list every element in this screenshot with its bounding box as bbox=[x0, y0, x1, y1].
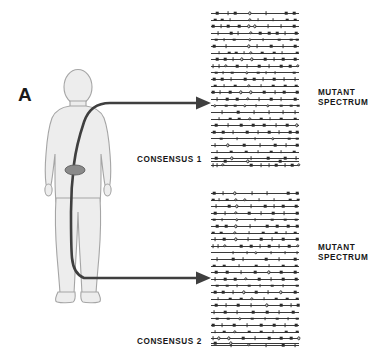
filled-square-mutation-marker bbox=[221, 78, 224, 81]
filled-square-mutation-marker bbox=[248, 330, 251, 333]
tick-mutation-marker bbox=[247, 251, 248, 255]
genome-backbone bbox=[211, 345, 299, 346]
tick-mutation-marker bbox=[258, 150, 259, 154]
filled-square-mutation-marker bbox=[284, 157, 287, 160]
tick-mutation-marker bbox=[228, 124, 229, 128]
genome-backbone bbox=[211, 343, 299, 344]
genome-backbone bbox=[211, 318, 299, 319]
filled-square-mutation-marker bbox=[268, 32, 271, 35]
filled-square-mutation-marker bbox=[284, 85, 287, 88]
tick-mutation-marker bbox=[215, 330, 216, 334]
filled-square-mutation-marker bbox=[280, 104, 283, 107]
filled-square-mutation-marker bbox=[279, 160, 282, 163]
tick-mutation-marker bbox=[271, 251, 272, 255]
tick-mutation-marker bbox=[264, 297, 265, 301]
filled-square-mutation-marker bbox=[286, 19, 289, 22]
filled-square-mutation-marker bbox=[212, 232, 215, 235]
tick-mutation-marker bbox=[274, 58, 275, 62]
tick-mutation-marker bbox=[215, 277, 216, 281]
tick-mutation-marker bbox=[288, 317, 289, 321]
figure-hand-left bbox=[45, 184, 52, 196]
tick-mutation-marker bbox=[251, 304, 252, 308]
filled-square-mutation-marker bbox=[276, 32, 279, 35]
tick-mutation-marker bbox=[295, 77, 296, 81]
mutant-spectrum-label-2-line1: MUTANT bbox=[318, 243, 368, 253]
filled-square-mutation-marker bbox=[286, 298, 289, 301]
tick-mutation-marker bbox=[222, 110, 223, 114]
filled-square-mutation-marker bbox=[260, 330, 263, 333]
tick-mutation-marker bbox=[213, 64, 214, 68]
filled-square-mutation-marker bbox=[288, 245, 291, 248]
genome-backbone bbox=[211, 305, 299, 306]
filled-square-mutation-marker bbox=[225, 225, 228, 228]
filled-square-mutation-marker bbox=[213, 218, 216, 221]
filled-square-mutation-marker bbox=[296, 137, 299, 140]
filled-square-mutation-marker bbox=[275, 232, 278, 235]
filled-square-mutation-marker bbox=[257, 71, 260, 74]
filled-square-mutation-marker bbox=[243, 144, 246, 147]
filled-square-mutation-marker bbox=[265, 258, 268, 261]
tick-mutation-marker bbox=[272, 238, 273, 242]
filled-square-mutation-marker bbox=[232, 258, 235, 261]
filled-square-mutation-marker bbox=[264, 58, 267, 61]
filled-square-mutation-marker bbox=[287, 192, 290, 195]
filled-square-mutation-marker bbox=[271, 284, 274, 287]
tick-mutation-marker bbox=[268, 290, 269, 294]
filled-square-mutation-marker bbox=[293, 12, 296, 15]
tick-mutation-marker bbox=[270, 117, 271, 121]
filled-square-mutation-marker bbox=[240, 124, 243, 127]
filled-square-mutation-marker bbox=[224, 160, 227, 163]
filled-square-mutation-marker bbox=[260, 238, 263, 241]
filled-square-mutation-marker bbox=[294, 58, 297, 61]
mutant-spectrum-label-2: MUTANT SPECTRUM bbox=[318, 243, 368, 262]
filled-square-mutation-marker bbox=[261, 52, 264, 55]
filled-square-mutation-marker bbox=[221, 19, 224, 22]
tick-mutation-marker bbox=[220, 91, 221, 95]
tick-mutation-marker bbox=[259, 97, 260, 101]
filled-square-mutation-marker bbox=[280, 65, 283, 68]
filled-square-mutation-marker bbox=[286, 124, 289, 127]
filled-square-mutation-marker bbox=[224, 58, 227, 61]
filled-square-mutation-marker bbox=[237, 304, 240, 307]
filled-square-mutation-marker bbox=[285, 330, 288, 333]
tick-mutation-marker bbox=[233, 290, 234, 294]
filled-square-mutation-marker bbox=[258, 278, 261, 281]
tick-mutation-marker bbox=[284, 211, 285, 215]
filled-square-mutation-marker bbox=[234, 12, 237, 15]
filled-square-mutation-marker bbox=[275, 298, 278, 301]
tick-mutation-marker bbox=[271, 277, 272, 281]
filled-square-mutation-marker bbox=[273, 78, 276, 81]
filled-square-mutation-marker bbox=[284, 218, 287, 221]
tick-mutation-marker bbox=[243, 257, 244, 261]
filled-square-mutation-marker bbox=[212, 25, 215, 28]
tick-mutation-marker bbox=[248, 238, 249, 242]
tick-mutation-marker bbox=[222, 218, 223, 222]
tick-mutation-marker bbox=[276, 124, 277, 128]
filled-square-mutation-marker bbox=[212, 199, 215, 202]
filled-square-mutation-marker bbox=[240, 245, 243, 248]
tick-mutation-marker bbox=[224, 38, 225, 42]
mutant-spectrum-label-1-line2: SPECTRUM bbox=[318, 98, 368, 108]
filled-square-mutation-marker bbox=[263, 124, 266, 127]
filled-square-mutation-marker bbox=[282, 344, 285, 347]
tick-mutation-marker bbox=[251, 205, 252, 209]
tick-mutation-marker bbox=[266, 71, 267, 75]
mutant-spectrum-label-1-line1: MUTANT bbox=[318, 88, 368, 98]
tick-mutation-marker bbox=[218, 297, 219, 301]
tick-mutation-marker bbox=[286, 231, 287, 235]
genome-backbone bbox=[211, 72, 299, 73]
tick-mutation-marker bbox=[217, 163, 218, 167]
genome-backbone bbox=[211, 99, 299, 100]
filled-square-mutation-marker bbox=[296, 225, 299, 228]
genome-backbone bbox=[211, 33, 299, 34]
tick-mutation-marker bbox=[215, 143, 216, 147]
filled-square-mutation-marker bbox=[272, 85, 275, 88]
tick-mutation-marker bbox=[261, 211, 262, 215]
tick-mutation-marker bbox=[250, 224, 251, 228]
filled-square-mutation-marker bbox=[235, 52, 238, 55]
filled-square-mutation-marker bbox=[223, 238, 226, 241]
tick-mutation-marker bbox=[295, 110, 296, 114]
tick-mutation-marker bbox=[285, 323, 286, 327]
filled-square-mutation-marker bbox=[231, 71, 234, 74]
tick-mutation-marker bbox=[214, 310, 215, 314]
